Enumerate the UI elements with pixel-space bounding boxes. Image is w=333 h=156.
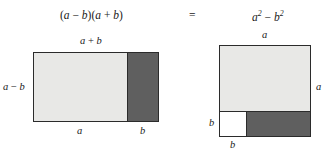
left-diagram-bottom-label-a: a — [77, 126, 82, 137]
equals-sign: = — [189, 10, 196, 22]
exponent-2-on-b: 2 — [280, 9, 284, 18]
right-dark-region — [247, 112, 310, 136]
difference-of-squares-figure: (a − b)(a + b) = a2 − b2 a + b a − b a b… — [0, 0, 333, 156]
right-white-square-region — [220, 112, 247, 136]
top-label-b: b — [96, 35, 101, 46]
right-light-region — [220, 46, 310, 112]
paren-close: ) — [119, 9, 123, 21]
left-light-region — [34, 53, 127, 121]
equation-left-hand-side: (a − b)(a + b) — [60, 10, 123, 22]
right-square — [219, 45, 311, 137]
left-diagram-bottom-label-b: b — [140, 126, 145, 137]
left-dark-region — [127, 53, 158, 121]
left-rectangle — [33, 52, 159, 122]
right-diagram-left-label-b: b — [209, 118, 214, 129]
left-label-b: b — [19, 81, 24, 92]
right-diagram-bottom-label-b: b — [230, 140, 235, 151]
equation-right-hand-side: a2 − b2 — [252, 10, 284, 23]
left-diagram-left-label: a − b — [3, 82, 25, 93]
left-diagram-top-label: a + b — [80, 36, 102, 47]
right-diagram-right-label-a: a — [316, 82, 321, 93]
right-diagram-top-label-a: a — [262, 30, 267, 41]
